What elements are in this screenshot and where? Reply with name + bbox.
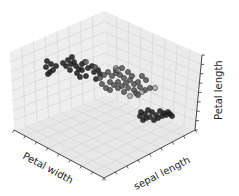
data-point [45,71,50,76]
data-point [115,79,120,84]
data-point [121,89,126,94]
data-point [143,77,148,82]
data-point [99,81,104,86]
data-point [48,61,53,66]
data-point [79,67,84,72]
data-point [151,117,156,122]
scatter-3d-chart: Petal width sepal length Petal length [0,0,239,196]
data-point [115,67,120,72]
data-point [137,113,142,118]
data-point [125,69,130,74]
data-point [69,54,74,59]
data-point [137,84,142,89]
data-point [53,63,58,68]
data-point [115,85,120,90]
data-point [139,89,144,94]
data-point [43,64,48,69]
data-point [63,63,68,68]
data-point [107,87,112,92]
data-point [152,85,157,90]
data-point [127,93,132,98]
data-point [125,85,130,90]
data-point [92,64,97,69]
data-point [105,69,110,74]
data-point [83,59,88,64]
data-point [67,67,72,72]
data-point [169,113,174,118]
data-point [147,85,152,90]
data-point [121,75,126,80]
data-point [139,73,144,78]
data-point [129,73,134,78]
y-axis-label: sepal length [132,154,192,192]
z-axis-label: Petal length [213,60,224,120]
data-point [77,74,82,79]
data-point [83,73,88,78]
data-point [135,79,140,84]
